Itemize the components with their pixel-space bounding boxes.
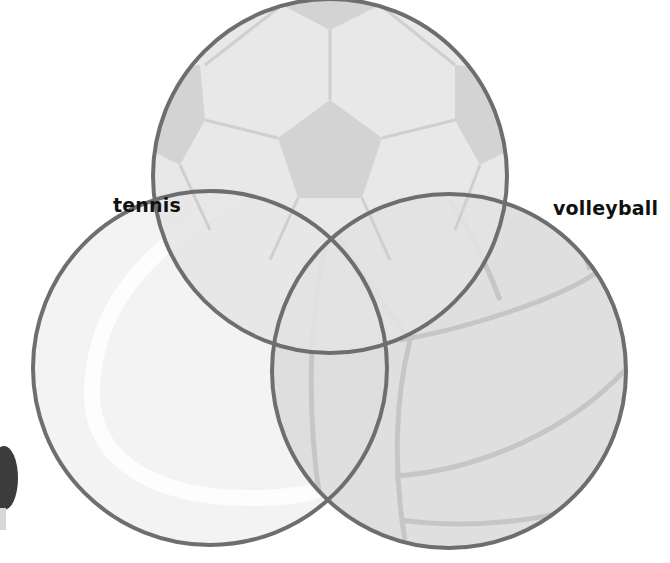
set-label-volleyball: volleyball <box>553 197 658 219</box>
partial-ball-light <box>0 508 6 530</box>
partial-ball-icon <box>0 446 18 530</box>
partial-ball-dark <box>0 446 18 510</box>
venn-diagram <box>0 0 670 563</box>
set-label-tennis: tennis <box>113 194 181 216</box>
